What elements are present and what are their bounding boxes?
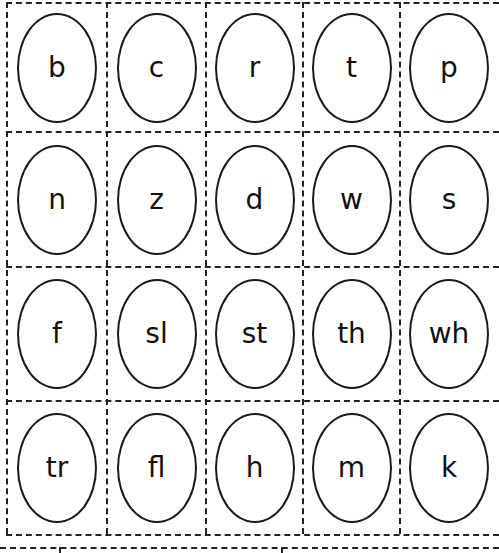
oval-card[interactable]: t — [312, 13, 392, 123]
card-letter: k — [441, 454, 457, 482]
oval-card[interactable]: tr — [17, 413, 97, 523]
card-letter: fl — [148, 454, 166, 482]
card-cell: b — [8, 4, 106, 131]
card-cell: st — [207, 268, 302, 400]
card-cell: tr — [8, 402, 106, 534]
oval-card[interactable]: d — [215, 145, 295, 255]
card-cell: wh — [401, 268, 497, 400]
oval-card[interactable]: c — [117, 13, 197, 123]
card-cell: n — [8, 133, 106, 266]
card-cell: r — [207, 4, 302, 131]
card-letter: d — [246, 186, 264, 214]
card-cell: f — [8, 268, 106, 400]
card-letter: f — [52, 320, 62, 348]
card-letter: sl — [145, 320, 167, 348]
card-cell: h — [207, 402, 302, 534]
card-letter: c — [149, 54, 164, 82]
oval-card[interactable]: wh — [409, 279, 489, 389]
card-cell: d — [207, 133, 302, 266]
tick-mark — [281, 547, 283, 553]
oval-card[interactable]: b — [17, 13, 97, 123]
oval-card[interactable]: s — [409, 145, 489, 255]
card-letter: t — [346, 54, 357, 82]
card-letter: s — [442, 186, 457, 214]
oval-card[interactable]: n — [17, 145, 97, 255]
card-cell: t — [304, 4, 399, 131]
oval-card[interactable]: sl — [117, 279, 197, 389]
card-cell: k — [401, 402, 497, 534]
card-letter: h — [246, 454, 264, 482]
card-letter: p — [440, 54, 458, 82]
oval-card[interactable]: k — [409, 413, 489, 523]
card-letter: n — [48, 186, 66, 214]
card-cell: s — [401, 133, 497, 266]
card-letter: wh — [429, 320, 470, 348]
card-cell: c — [108, 4, 205, 131]
oval-card[interactable]: m — [312, 413, 392, 523]
card-cell: th — [304, 268, 399, 400]
card-letter: z — [149, 186, 164, 214]
cut-line-h-bottom — [0, 547, 499, 549]
oval-card[interactable]: w — [312, 145, 392, 255]
oval-card[interactable]: st — [215, 279, 295, 389]
oval-card[interactable]: fl — [117, 413, 197, 523]
cut-line-h — [6, 534, 499, 536]
card-cell: fl — [108, 402, 205, 534]
card-letter: m — [338, 454, 365, 482]
tick-mark — [59, 547, 61, 553]
oval-card[interactable]: z — [117, 145, 197, 255]
card-letter: r — [249, 54, 261, 82]
card-cell: w — [304, 133, 399, 266]
card-cell: z — [108, 133, 205, 266]
oval-card[interactable]: th — [312, 279, 392, 389]
oval-card[interactable]: r — [215, 13, 295, 123]
oval-card[interactable]: h — [215, 413, 295, 523]
card-letter: th — [337, 320, 366, 348]
card-cell: p — [401, 4, 497, 131]
oval-card[interactable]: f — [17, 279, 97, 389]
card-letter: b — [48, 54, 66, 82]
oval-card[interactable]: p — [409, 13, 489, 123]
card-letter: w — [340, 186, 363, 214]
card-letter: tr — [46, 454, 69, 482]
card-letter: st — [242, 320, 268, 348]
card-cell: sl — [108, 268, 205, 400]
worksheet-sheet: b c r t p n z d w s f sl st th wh tr fl … — [0, 0, 499, 553]
card-cell: m — [304, 402, 399, 534]
